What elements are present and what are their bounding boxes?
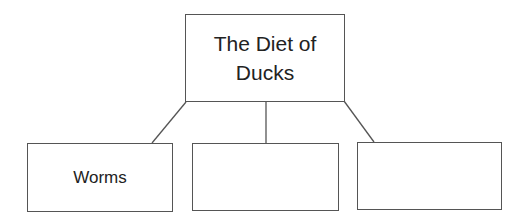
child-node-2	[192, 143, 339, 211]
child-node-3	[357, 142, 502, 210]
root-node-label: The Diet of Ducks	[196, 29, 334, 87]
root-node: The Diet of Ducks	[185, 14, 345, 102]
connector-root-to-child-3	[344, 101, 374, 142]
connector-root-to-child-1	[152, 102, 186, 143]
child-node-1-label: Worms	[73, 168, 127, 188]
child-node-1: Worms	[27, 143, 173, 212]
